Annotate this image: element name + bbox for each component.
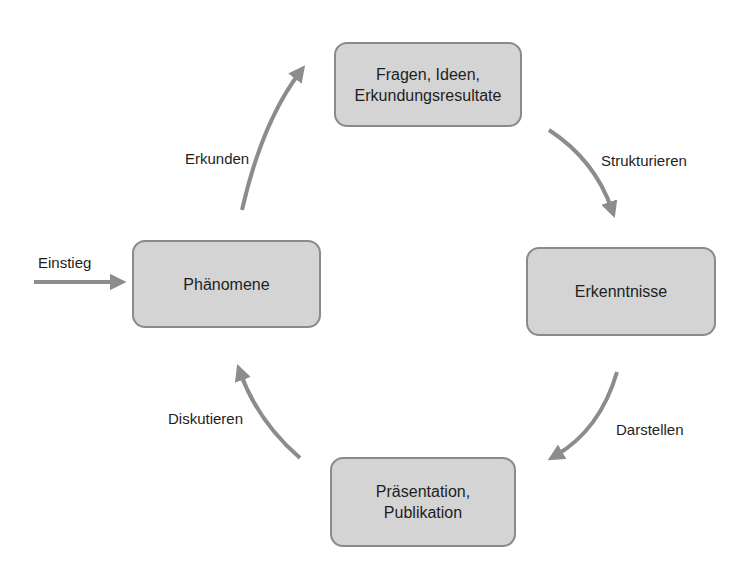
edge-label-strukturieren: Strukturieren — [601, 152, 687, 169]
node-phaenomene: Phänomene — [132, 240, 321, 328]
node-phaenomene-label: Phänomene — [183, 274, 269, 295]
arrow-darstellen — [555, 372, 617, 456]
arrow-erkunden — [242, 72, 300, 210]
arrow-diskutieren — [240, 372, 300, 458]
arrow-strukturieren — [549, 130, 612, 210]
edge-label-diskutieren: Diskutieren — [168, 410, 243, 427]
node-erkenntnisse: Erkenntnisse — [526, 247, 716, 336]
entry-label: Einstieg — [38, 254, 91, 271]
node-praesentation: Präsentation, Publikation — [330, 457, 516, 547]
node-fragen: Fragen, Ideen, Erkundungsresultate — [334, 42, 522, 127]
node-praesentation-label: Präsentation, Publikation — [376, 481, 470, 523]
edge-label-erkunden: Erkunden — [185, 150, 249, 167]
edge-label-darstellen: Darstellen — [616, 421, 684, 438]
node-fragen-label: Fragen, Ideen, Erkundungsresultate — [355, 64, 502, 106]
node-erkenntnisse-label: Erkenntnisse — [575, 281, 668, 302]
